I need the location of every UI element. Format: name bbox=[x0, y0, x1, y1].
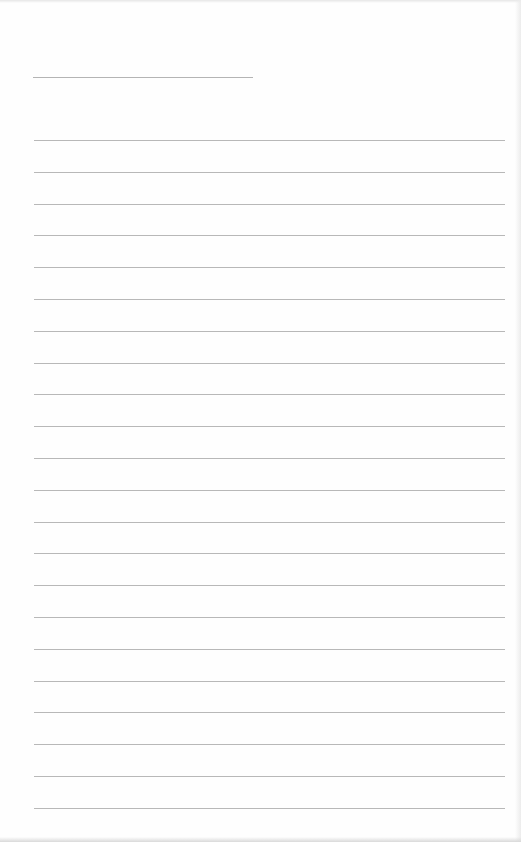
ruled-line bbox=[34, 649, 505, 650]
ruled-line bbox=[34, 712, 505, 713]
ruled-lines-container bbox=[0, 0, 521, 842]
ruled-line bbox=[34, 776, 505, 777]
page-right-edge-shadow bbox=[515, 0, 521, 842]
ruled-line bbox=[34, 299, 505, 300]
ruled-line bbox=[34, 490, 505, 491]
ruled-line bbox=[34, 553, 505, 554]
ruled-line bbox=[34, 267, 505, 268]
ruled-line bbox=[34, 235, 505, 236]
ruled-line bbox=[34, 204, 505, 205]
page-bottom-edge-shadow bbox=[0, 837, 521, 842]
lined-paper-page bbox=[0, 0, 521, 842]
ruled-line bbox=[34, 172, 505, 173]
ruled-line bbox=[34, 394, 505, 395]
ruled-line bbox=[34, 331, 505, 332]
ruled-line bbox=[34, 363, 505, 364]
ruled-line bbox=[34, 426, 505, 427]
ruled-line bbox=[34, 585, 505, 586]
ruled-line bbox=[34, 522, 505, 523]
ruled-line bbox=[34, 744, 505, 745]
ruled-line bbox=[34, 140, 505, 141]
ruled-line bbox=[34, 458, 505, 459]
ruled-line bbox=[34, 808, 505, 809]
ruled-line bbox=[34, 617, 505, 618]
ruled-line bbox=[34, 681, 505, 682]
